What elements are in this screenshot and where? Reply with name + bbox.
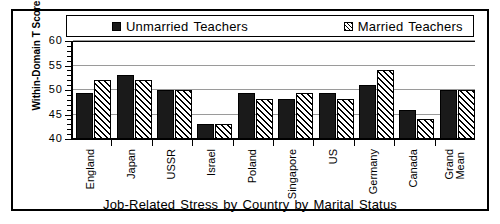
plot-area (71, 41, 475, 139)
bar[interactable] (278, 99, 295, 139)
x-axis-title: Job-RelatedStressbyCountrybyMaritalStatu… (13, 197, 487, 212)
y-tick-label-55: 55 (39, 60, 63, 71)
bar[interactable] (399, 110, 416, 139)
x-tick (394, 140, 395, 146)
bar-group (157, 42, 193, 139)
x-category-label: Israel (206, 149, 217, 176)
x-category-label: GrandMean (444, 149, 466, 180)
y-tick-label-60: 60 (39, 35, 63, 46)
bar[interactable] (157, 90, 174, 139)
bar[interactable] (238, 93, 255, 139)
bar[interactable] (256, 99, 273, 139)
bar-group (278, 42, 314, 139)
x-category-label: England (85, 149, 96, 189)
x-axis-title-word: by (294, 197, 308, 212)
x-axis-title-word: Marital (314, 197, 354, 212)
x-tick (435, 140, 436, 146)
x-category-label: Canada (408, 149, 419, 188)
x-axis-title-word: Country (242, 197, 289, 212)
bar-group (238, 42, 274, 139)
bar[interactable] (359, 85, 376, 139)
x-tick (152, 140, 153, 146)
x-axis-title-word: by (223, 197, 237, 212)
x-tick (192, 140, 193, 146)
legend-label-married-teachers: MarriedTeachers (358, 20, 463, 33)
legend-label-unmarried-teachers: UnmarriedTeachers (126, 20, 248, 33)
bar-group (197, 42, 233, 139)
bar[interactable] (215, 124, 232, 139)
legend-swatch-solid-icon (112, 22, 121, 31)
y-tick-label-40: 40 (39, 133, 63, 144)
legend-item-unmarried-teachers[interactable]: UnmarriedTeachers (112, 20, 248, 33)
x-category-label: USSR (166, 149, 177, 180)
x-tick (354, 140, 355, 146)
bar[interactable] (337, 99, 354, 139)
y-tick-label-50: 50 (39, 84, 63, 95)
chart-legend: UnmarriedTeachers MarriedTeachers (66, 15, 474, 37)
x-axis-title-word: Stress (180, 197, 218, 212)
bar-group (440, 42, 476, 139)
bar[interactable] (377, 70, 394, 139)
bar[interactable] (135, 80, 152, 139)
bar-group (117, 42, 153, 139)
x-tick (273, 140, 274, 146)
x-category-label: Singapore (287, 149, 298, 199)
bar[interactable] (175, 90, 192, 139)
x-category-label-line2: Mean (455, 149, 466, 180)
bar[interactable] (440, 90, 457, 139)
x-tick (233, 140, 234, 146)
bar[interactable] (417, 119, 434, 139)
bar[interactable] (458, 90, 475, 139)
y-tick-label-45: 45 (39, 109, 63, 120)
x-category-label-line1: Grand (443, 149, 455, 180)
bar[interactable] (296, 93, 313, 139)
bar-group (76, 42, 112, 139)
chart-figure: UnmarriedTeachers MarriedTeachers Within… (11, 9, 489, 211)
bar[interactable] (319, 93, 336, 139)
x-category-label: Germany (368, 149, 379, 194)
bar-group (359, 42, 395, 139)
legend-item-married-teachers[interactable]: MarriedTeachers (344, 20, 463, 33)
x-tick (111, 140, 112, 146)
x-category-label: Poland (247, 149, 258, 183)
bar-group (319, 42, 355, 139)
x-axis-title-word: Job-Related (103, 197, 175, 212)
bar-group (399, 42, 435, 139)
gridline-60 (73, 40, 475, 41)
bar[interactable] (76, 93, 93, 139)
x-axis-title-word: Status (359, 197, 397, 212)
bar[interactable] (94, 80, 111, 139)
bar[interactable] (117, 75, 134, 139)
x-tick (313, 140, 314, 146)
x-category-label: US (328, 149, 339, 164)
legend-swatch-hatch-icon (344, 22, 353, 31)
bar[interactable] (197, 124, 214, 139)
x-category-label: Japan (126, 149, 137, 179)
